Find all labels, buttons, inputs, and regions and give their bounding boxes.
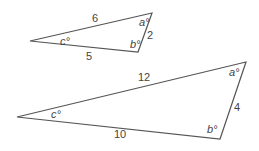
large-triangle: 12 10 4 a° b° c° [17,62,246,140]
large-angle-b-label: b° [207,123,218,135]
small-angle-b-label: b° [130,38,141,50]
small-triangle: 6 5 2 a° b° c° [30,12,153,62]
large-angle-a-label: a° [229,66,240,78]
small-side-top-label: 6 [92,12,98,24]
small-angle-c-label: c° [60,35,71,47]
diagram-canvas: 6 5 2 a° b° c° 12 10 4 a° b° c° [0,0,259,151]
large-side-bottom-label: 10 [114,128,126,140]
large-angle-c-label: c° [51,108,62,120]
small-side-right-label: 2 [147,29,153,41]
small-angle-a-label: a° [139,16,150,28]
large-side-top-label: 12 [138,71,150,83]
small-side-bottom-label: 5 [86,50,92,62]
large-side-right-label: 4 [234,101,240,113]
